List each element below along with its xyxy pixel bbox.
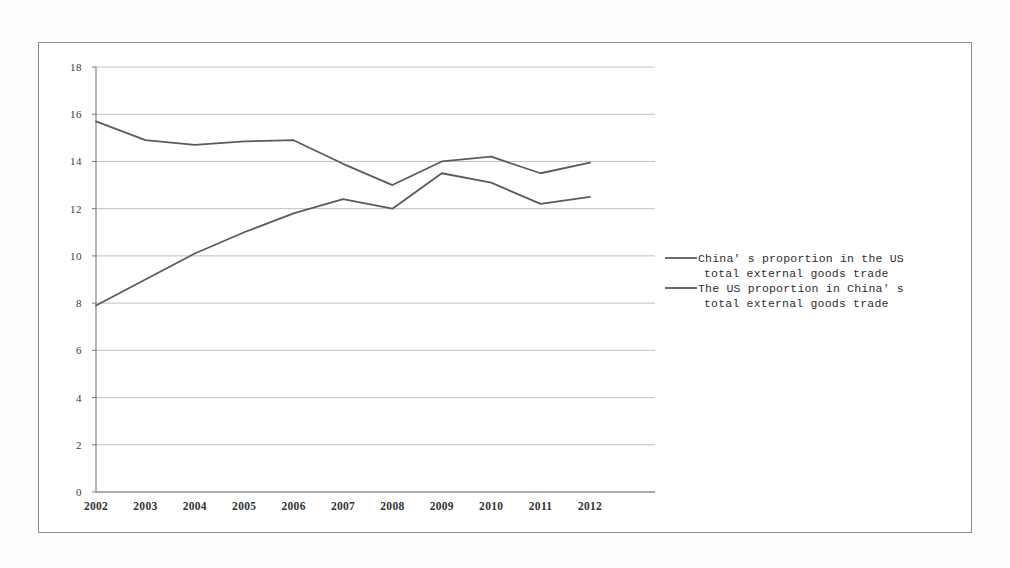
y-axis-tick-marks <box>92 67 96 492</box>
series-line-1 <box>96 173 590 305</box>
x-axis-tick-labels: 2002200320042005200620072008200920102011… <box>84 500 602 512</box>
data-series-group <box>96 121 590 305</box>
y-axis-tick-label: 8 <box>76 297 82 309</box>
y-axis-tick-label: 16 <box>70 108 82 120</box>
y-axis-tick-label: 4 <box>76 392 82 404</box>
line-chart: 024681012141618 200220032004200520062007… <box>0 0 1010 568</box>
y-axis-tick-label: 10 <box>70 250 82 262</box>
y-axis-tick-label: 0 <box>76 486 82 498</box>
legend-label-2: The US proportion in China' s <box>698 282 904 295</box>
x-axis-tick-label: 2009 <box>430 500 454 512</box>
gridlines-group <box>96 67 655 492</box>
x-axis-tick-label: 2011 <box>529 500 553 512</box>
y-axis-tick-label: 12 <box>70 203 82 215</box>
x-axis-tick-label: 2010 <box>479 500 503 512</box>
y-axis-tick-labels: 024681012141618 <box>70 61 82 498</box>
y-axis-tick-label: 6 <box>76 344 82 356</box>
legend-label-2-cont: total external goods trade <box>704 297 889 310</box>
legend-label-1: China' s proportion in the US <box>698 252 904 265</box>
y-axis-tick-label: 18 <box>70 61 82 73</box>
x-axis-tick-label: 2006 <box>281 500 305 512</box>
legend-label-1-cont: total external goods trade <box>704 267 889 280</box>
chart-figure: 024681012141618 200220032004200520062007… <box>0 0 1010 568</box>
x-axis-tick-label: 2008 <box>380 500 404 512</box>
x-axis-tick-label: 2004 <box>183 500 207 512</box>
y-axis-tick-label: 2 <box>76 439 82 451</box>
x-axis-tick-label: 2007 <box>331 500 355 512</box>
y-axis-tick-label: 14 <box>70 155 82 167</box>
series-line-2 <box>96 121 590 185</box>
x-axis-tick-label: 2002 <box>84 500 108 512</box>
x-axis-tick-label: 2012 <box>578 500 602 512</box>
x-axis-tick-label: 2003 <box>133 500 157 512</box>
x-axis-tick-label: 2005 <box>232 500 256 512</box>
chart-legend: China' s proportion in the UStotal exter… <box>665 252 904 310</box>
